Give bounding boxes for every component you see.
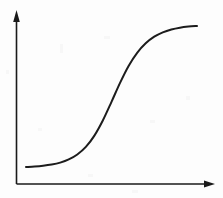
figure-container: Sigmoid (S-shaped) growth curve Hand-dra…: [0, 0, 223, 198]
x-axis-arrowhead-icon: [204, 181, 215, 188]
sigmoid-curve-figure: [0, 0, 223, 198]
scan-noise-group: [6, 36, 190, 193]
sigmoid-curve-path: [26, 26, 197, 167]
y-axis-arrowhead-icon: [13, 10, 20, 22]
